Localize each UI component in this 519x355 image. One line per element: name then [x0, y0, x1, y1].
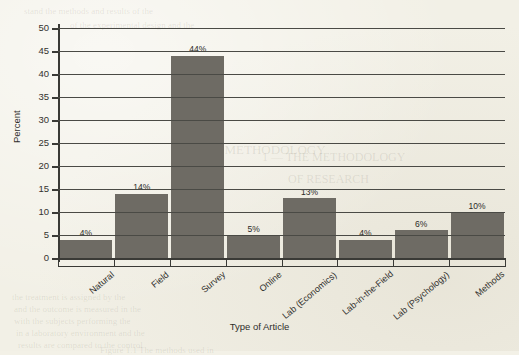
x-axis-category-label: Lab (Psychology)	[392, 270, 451, 322]
y-axis-tick-label: 35	[38, 92, 49, 102]
x-axis-tick	[393, 258, 394, 267]
bar-value-label: 44%	[189, 45, 206, 54]
gridline	[58, 235, 505, 236]
gridline	[58, 74, 505, 75]
x-axis-tick	[226, 258, 227, 267]
x-axis-category-label: Lab-in-the-Field	[341, 270, 395, 317]
gridline	[58, 120, 505, 121]
y-axis-tick-label: 45	[38, 46, 49, 56]
y-axis-tick	[52, 120, 58, 122]
y-axis-tick	[52, 212, 58, 214]
bar-value-label: 10%	[469, 202, 486, 211]
plot-area: 4%14%44%5%13%4%6%10% 0510152025303540455…	[58, 28, 505, 258]
gridline	[58, 51, 505, 52]
y-axis-tick-label: 15	[38, 184, 49, 194]
y-axis-tick-label: 25	[38, 138, 49, 148]
x-axis-tick	[449, 258, 450, 267]
x-axis-tick	[170, 258, 171, 267]
bar-value-label: 4%	[80, 229, 92, 238]
x-axis-tick	[337, 258, 338, 267]
y-axis-tick-label: 30	[38, 115, 49, 125]
bar-value-label: 6%	[415, 220, 427, 229]
y-axis-tick	[52, 189, 58, 191]
x-axis-category-label: Survey	[200, 270, 227, 295]
y-axis-tick-label: 5	[44, 230, 49, 240]
gridline	[58, 212, 505, 213]
y-axis-tick	[52, 235, 58, 237]
bar: 4%	[339, 240, 392, 258]
y-axis-tick	[52, 51, 58, 53]
y-axis-tick	[52, 74, 58, 76]
gridline	[58, 143, 505, 144]
x-axis-tick	[282, 258, 283, 267]
gridline	[58, 28, 505, 29]
x-axis-category-label: Field	[150, 270, 171, 289]
gridline	[58, 97, 505, 98]
y-axis-tick	[52, 143, 58, 145]
bar-value-label: 4%	[359, 229, 371, 238]
bar: 4%	[60, 240, 113, 258]
x-axis-tick	[114, 258, 115, 267]
x-axis-category-label: Methods	[474, 270, 506, 299]
y-axis-tick-label: 20	[38, 161, 49, 171]
y-axis-tick-label: 10	[38, 207, 49, 217]
y-axis-tick	[52, 166, 58, 168]
y-axis-title: Percent	[12, 110, 22, 143]
x-axis-category-label: Lab (Economics)	[281, 270, 339, 320]
x-axis-tick	[505, 258, 506, 267]
x-axis-category-label: Natural	[88, 270, 116, 296]
bar: 5%	[227, 235, 280, 258]
y-axis-tick-label: 50	[38, 23, 49, 33]
bar: 13%	[283, 198, 336, 258]
bar: 44%	[171, 56, 224, 258]
x-axis-tick	[58, 258, 59, 267]
gridline	[58, 166, 505, 167]
bar-value-label: 5%	[247, 225, 259, 234]
y-axis-tick	[52, 28, 58, 30]
bar-value-label: 14%	[133, 183, 150, 192]
bar: 14%	[115, 194, 168, 258]
gridline	[58, 189, 505, 190]
y-axis-tick-label: 0	[44, 253, 49, 263]
x-axis-title: Type of Article	[0, 322, 519, 332]
y-axis-tick-label: 40	[38, 69, 49, 79]
x-axis-category-label: Online	[258, 270, 284, 294]
y-axis-tick	[52, 97, 58, 99]
